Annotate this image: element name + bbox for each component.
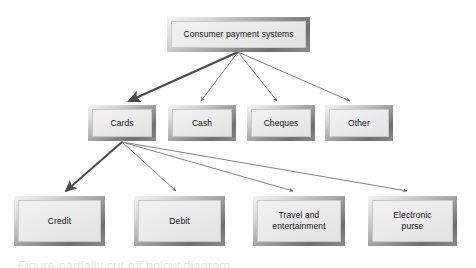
node-label-wrap: Credit — [18, 200, 101, 242]
edge-cards-to-travel-and-entertainment — [122, 142, 293, 191]
node-label: Consumer payment systems — [183, 29, 293, 40]
node-label: Credit — [48, 216, 71, 227]
node-cheques[interactable]: Cheques — [247, 105, 315, 141]
node-label-wrap: Debit — [138, 200, 221, 242]
node-electronic-purse[interactable]: Electronic purse — [368, 196, 457, 246]
node-label-wrap: Cash — [172, 109, 232, 137]
node-cash[interactable]: Cash — [168, 105, 236, 141]
node-cards[interactable]: Cards — [88, 105, 156, 141]
node-other[interactable]: Other — [325, 105, 393, 141]
node-label: Electronic — [393, 210, 431, 220]
node-credit[interactable]: Credit — [14, 196, 105, 246]
node-label-wrap: Other — [329, 109, 389, 137]
node-travel-and-entertainment[interactable]: Travel and entertainment — [253, 196, 345, 246]
edge-root-to-cheques — [238, 52, 277, 101]
diagram-canvas: Consumer payment systems Cards Cash Cheq… — [0, 0, 476, 268]
node-label-wrap: Electronic purse — [372, 200, 453, 242]
node-label: Debit — [169, 216, 189, 227]
node-label-wrap: Travel and entertainment — [257, 200, 341, 242]
edge-root-to-cards — [129, 52, 238, 101]
edge-root-to-other — [238, 52, 350, 101]
caption-text-sliver: Figure partially cut off below diagram — [0, 259, 476, 268]
node-consumer-payment-systems[interactable]: Consumer payment systems — [167, 17, 310, 52]
node-label: Cash — [192, 118, 212, 129]
node-label-line2: entertainment — [272, 221, 325, 232]
node-label: Cheques — [264, 118, 299, 129]
edges-root-to-level2 — [129, 52, 350, 101]
edge-cards-to-electronic-purse — [122, 142, 407, 191]
node-label-wrap: Cheques — [251, 109, 311, 137]
node-label-wrap: Consumer payment systems — [171, 21, 306, 48]
node-label: Travel and — [279, 210, 320, 220]
node-label: Cards — [110, 118, 133, 129]
edges-cards-to-level3 — [66, 142, 407, 191]
node-label-line2: purse — [393, 221, 431, 232]
edge-cards-to-credit — [66, 142, 122, 191]
node-label: Other — [348, 118, 370, 129]
node-debit[interactable]: Debit — [134, 196, 225, 246]
node-label-wrap: Cards — [92, 109, 152, 137]
